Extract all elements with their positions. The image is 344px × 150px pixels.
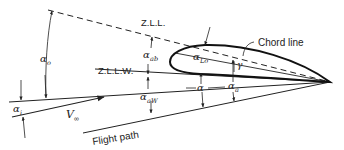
svg-text:a: a: [235, 86, 239, 94]
svg-text:α: α: [228, 80, 235, 91]
alpha-i-arrow-up: [23, 117, 25, 138]
airfoil-angle-diagram: Z.L.L. Z.L.L.W. Chord line Flight path V…: [0, 0, 344, 150]
svg-text:ab: ab: [150, 55, 158, 63]
zllw-label: Z.L.L.W.: [98, 65, 133, 76]
svg-text:∞: ∞: [74, 115, 79, 122]
alpha-a-arrow-down: [233, 92, 234, 101]
svg-text:aW: aW: [147, 97, 159, 105]
svg-text:i: i: [20, 109, 22, 117]
v-infinity-label: V ∞: [66, 108, 79, 122]
alpha-ab-label: α ab: [143, 49, 158, 63]
svg-text:α: α: [140, 91, 147, 102]
zll-label: Z.L.L.: [141, 17, 165, 28]
alpha-lo-label: α Lo: [193, 51, 208, 65]
svg-text:α: α: [40, 53, 47, 64]
chord-line-label: Chord line: [258, 37, 304, 48]
svg-text:α: α: [13, 103, 20, 114]
alpha-ab-arrow-up: [151, 37, 152, 48]
gamma-label: γ: [237, 60, 243, 70]
svg-text:o: o: [47, 59, 51, 67]
alpha-a-label: α a: [228, 80, 239, 94]
alpha-arrow-down: [202, 92, 203, 107]
airfoil-pointer-arrow: [205, 27, 210, 45]
alpha-dash-right: [208, 87, 225, 88]
alpha-i-label: α i: [13, 103, 22, 117]
svg-text:Lo: Lo: [199, 57, 208, 65]
flight-path-label: Flight path: [92, 129, 140, 147]
alpha-label: α: [197, 82, 204, 93]
svg-text:α: α: [193, 51, 200, 62]
svg-text:α: α: [143, 49, 150, 60]
alpha-o-label: α o: [40, 53, 51, 67]
freestream-velocity-arrow: [12, 97, 104, 117]
